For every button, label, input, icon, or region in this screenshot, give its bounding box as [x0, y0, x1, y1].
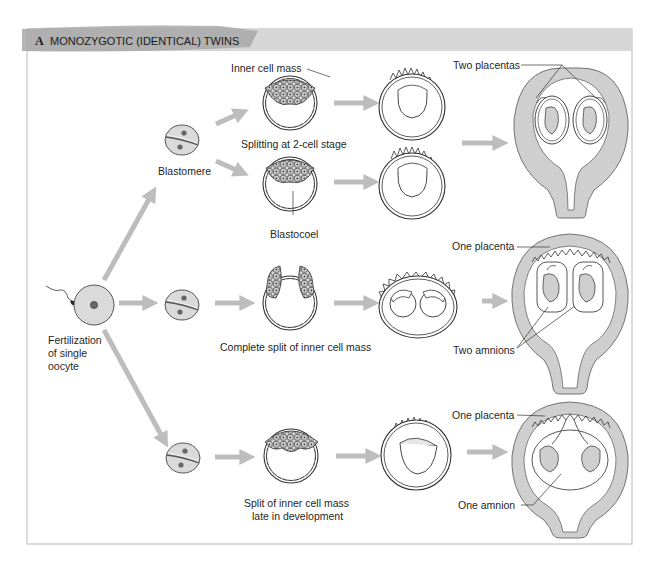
blastomere-two-cell-mid — [165, 290, 199, 320]
label-complete-split: Complete split of inner cell mass — [220, 341, 371, 353]
label-one-placenta-bottom: One placenta — [452, 409, 515, 421]
label-two-placentas: Two placentas — [453, 59, 520, 71]
label-fertilization-3: oocyte — [48, 360, 79, 372]
label-late-split-1: Split of inner cell mass — [244, 497, 349, 509]
label-fertilization-1: Fertilization — [48, 334, 102, 346]
blastocyst-row3-late — [264, 429, 318, 483]
label-late-split-2: late in development — [252, 510, 343, 522]
panel-letter: A — [35, 34, 44, 48]
figure-title: MONOZYGOTIC (IDENTICAL) TWINS — [50, 35, 239, 47]
label-blastocoel: Blastocoel — [270, 228, 318, 240]
label-fertilization-2: of single — [48, 347, 87, 359]
label-inner-cell-mass: Inner cell mass — [231, 62, 302, 74]
blastomere-two-cell-bottom — [166, 443, 200, 473]
blastocyst-row2-split — [263, 266, 317, 330]
blastomere-two-cell-top — [165, 125, 199, 155]
label-two-amnions: Two amnions — [453, 344, 515, 356]
header: A MONOZYGOTIC (IDENTICAL) TWINS — [22, 25, 632, 51]
blastocyst-row1a — [263, 76, 317, 130]
label-one-amnion: One amnion — [458, 499, 515, 511]
label-blastomere: Blastomere — [158, 165, 211, 177]
twins-diagram: A MONOZYGOTIC (IDENTICAL) TWINS Fertiliz… — [0, 0, 661, 570]
label-splitting-2-cell: Splitting at 2-cell stage — [241, 138, 347, 150]
label-one-placenta-mid: One placenta — [452, 240, 515, 252]
